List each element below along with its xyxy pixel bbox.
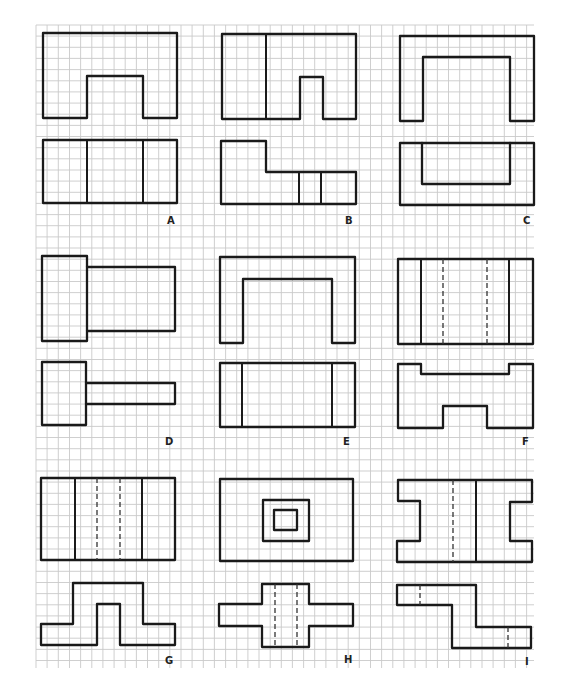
panel-c [400, 36, 534, 205]
outline [222, 34, 356, 119]
outline [86, 383, 175, 404]
outline [422, 143, 510, 184]
grid-lines [36, 25, 534, 668]
outline [221, 141, 356, 204]
outline [41, 478, 175, 560]
panel-label-f: F [522, 436, 529, 447]
panel-i [397, 480, 532, 648]
outline [397, 480, 532, 562]
outline [220, 363, 355, 427]
panel-label-i: I [525, 656, 529, 667]
panel-e [220, 257, 355, 427]
graph-paper-drawing [0, 0, 571, 689]
outline [400, 143, 534, 205]
outline [87, 267, 175, 331]
panel-label-h: H [344, 654, 352, 665]
panel-label-b: B [345, 215, 353, 226]
panel-f [398, 259, 533, 428]
panel-label-e: E [343, 436, 350, 447]
panel-label-a: A [167, 215, 175, 226]
outline [43, 140, 177, 203]
panel-label-d: D [165, 436, 173, 447]
panel-label-g: G [165, 655, 173, 666]
panel-g [41, 478, 175, 645]
panel-label-c: C [523, 215, 530, 226]
outline [400, 36, 534, 121]
outline [398, 364, 533, 428]
outline [398, 259, 533, 344]
panel-b [221, 34, 356, 204]
outline [43, 33, 177, 118]
outline [41, 583, 175, 645]
